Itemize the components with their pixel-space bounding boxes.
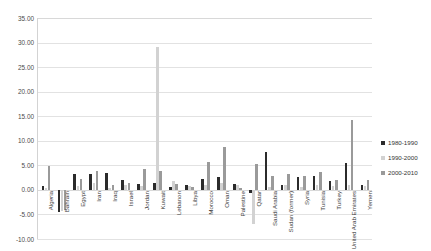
x-axis-tick-label: Morocco — [207, 191, 214, 215]
bar-chart: 35.0030.0025.0020.0015.0010.005.000.00-5… — [0, 0, 431, 251]
x-axis-tick-label: Saudi Arabia — [271, 191, 278, 226]
bar[interactable] — [207, 162, 210, 190]
bar[interactable] — [271, 176, 274, 190]
y-axis-tick-label: 0.00 — [1, 186, 34, 193]
x-axis-tick-label: Kuwait — [159, 191, 166, 210]
bar[interactable] — [128, 183, 131, 190]
bar[interactable] — [48, 166, 51, 190]
x-axis-tick-label: Iraq — [111, 191, 118, 202]
bar[interactable] — [112, 185, 115, 189]
x-axis-tick-label: Tunisia — [319, 191, 326, 211]
legend-item[interactable]: 1980-1990 — [381, 135, 431, 150]
bar[interactable] — [175, 184, 178, 190]
bar[interactable] — [239, 188, 242, 190]
x-axis-tick-label: Lebanon — [175, 191, 182, 215]
bar[interactable] — [255, 164, 258, 190]
x-axis-tick-label: Jordan — [143, 191, 150, 210]
x-axis-tick-label: Iran — [95, 191, 102, 202]
bar[interactable] — [143, 169, 146, 190]
bar[interactable] — [367, 180, 370, 190]
legend-item-label: 1990-2000 — [388, 154, 418, 161]
legend-item-label: 1980-1990 — [388, 139, 418, 146]
x-axis-tick-label: Libya — [191, 191, 198, 206]
legend-swatch-icon — [381, 141, 385, 145]
bar[interactable] — [159, 171, 162, 190]
x-axis-tick-label: Palestine — [239, 191, 246, 216]
x-axis-tick-label: Egypt — [79, 191, 86, 207]
y-axis-tick-label: 30.00 — [1, 39, 34, 46]
y-axis-tick-label: -5.00 — [1, 211, 34, 218]
legend-swatch-icon — [381, 156, 385, 160]
bar[interactable] — [287, 174, 290, 190]
x-axis-tick-label: Algeria — [47, 191, 54, 210]
y-axis-tick-label: 35.00 — [1, 15, 34, 22]
x-axis-tick-label: Syria — [303, 191, 310, 205]
x-axis-tick-label: Israel — [127, 191, 134, 206]
bar[interactable] — [265, 152, 268, 190]
x-axis-tick-label: Yemen — [366, 191, 373, 210]
x-axis-tick-label: Sudan (former) — [287, 191, 294, 233]
bar[interactable] — [351, 120, 354, 190]
legend-item[interactable]: 1990-2000 — [381, 150, 431, 165]
y-axis-tick-label: 10.00 — [1, 137, 34, 144]
bar[interactable] — [80, 179, 83, 190]
bar[interactable] — [303, 176, 306, 190]
y-axis-tick-label: 15.00 — [1, 113, 34, 120]
x-axis-tick-label: Turkey — [335, 191, 342, 210]
legend-item[interactable]: 2000-2010 — [381, 165, 431, 180]
y-axis: 35.0030.0025.0020.0015.0010.005.000.00-5… — [0, 18, 34, 239]
bar[interactable] — [223, 147, 226, 190]
x-axis-labels: AlgeriaBahrainEgyptIranIraqIsraelJordanK… — [37, 191, 372, 251]
y-axis-tick-label: -10.00 — [1, 236, 34, 243]
legend-swatch-icon — [381, 171, 385, 175]
y-axis-tick-label: 25.00 — [1, 64, 34, 71]
y-axis-tick-label: 5.00 — [1, 162, 34, 169]
bar[interactable] — [191, 187, 194, 190]
bar[interactable] — [156, 47, 159, 189]
bar[interactable] — [96, 171, 99, 190]
x-axis-tick-label: Qatar — [255, 191, 262, 206]
x-axis-tick-label: Oman — [223, 191, 230, 208]
bar[interactable] — [319, 172, 322, 190]
y-axis-tick-label: 20.00 — [1, 88, 34, 95]
x-axis-tick-label: United Arab Emirates — [350, 191, 357, 249]
x-axis-tick-label: Bahrain — [63, 191, 70, 212]
bar[interactable] — [335, 180, 338, 190]
chart-legend: 1980-19901990-20002000-2010 — [381, 135, 431, 180]
legend-item-label: 2000-2010 — [388, 169, 418, 176]
